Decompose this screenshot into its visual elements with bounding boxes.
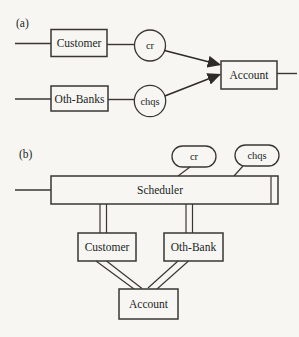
customer-account-channel-inner: [107, 261, 143, 289]
cr-label-a: cr: [146, 40, 155, 51]
scanned-diagram-page: (a) Customer cr Oth-Banks chqs: [0, 0, 299, 337]
panel-b: (b) cr chqs Scheduler Custom: [15, 145, 279, 319]
account-label-a: Account: [230, 69, 270, 81]
chqs-to-account-arrow: [165, 75, 219, 96]
cr-to-account-arrow: [165, 51, 220, 65]
chqs-label-a: chqs: [140, 96, 159, 107]
panel-b-label: (b): [19, 148, 33, 161]
panel-a-label: (a): [16, 17, 29, 30]
customer-label-b: Customer: [85, 241, 130, 253]
chqs-label-b: chqs: [247, 150, 266, 161]
panel-a: (a) Customer cr Oth-Banks chqs: [15, 17, 297, 117]
oth-bank-label-b: Oth-Bank: [171, 241, 217, 253]
customer-label-a: Customer: [57, 37, 102, 49]
customer-account-channel-outer: [96, 261, 134, 289]
chqs-scheduler-stub: [234, 166, 243, 176]
dataflow-diagram: (a) Customer cr Oth-Banks chqs: [0, 0, 299, 337]
oth-banks-label-a: Oth-Banks: [55, 93, 105, 105]
cr-label-b: cr: [190, 151, 199, 162]
scheduler-label: Scheduler: [137, 184, 183, 196]
account-label-b: Account: [129, 298, 169, 310]
cr-scheduler-stub: [178, 167, 190, 176]
